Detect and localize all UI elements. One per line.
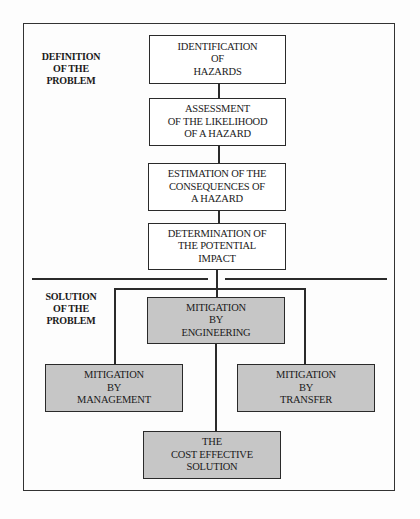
node-text: MITIGATION (186, 302, 246, 315)
connector-determination-branch (216, 270, 218, 297)
label-line: SOLUTION (36, 291, 106, 303)
connector-branch-transfer (304, 288, 306, 364)
node-assessment-of-likelihood: ASSESSMENT OF THE LIKELIHOOD OF A HAZARD (149, 98, 286, 146)
node-text: DETERMINATION OF (168, 228, 267, 241)
section-label-definition: DEFINITION OF THE PROBLEM (36, 51, 106, 87)
node-text: BY (299, 382, 313, 395)
label-line: PROBLEM (36, 315, 106, 327)
label-line: PROBLEM (36, 75, 106, 87)
connector-branch-management (114, 288, 116, 364)
connector-engineering-cost-effective (215, 344, 217, 431)
node-text: OF THE LIKELIHOOD (168, 116, 268, 129)
connector-identification-assessment (218, 84, 220, 98)
node-estimation-of-consequences: ESTIMATION OF THE CONSEQUENCES OF A HAZA… (148, 163, 286, 211)
node-text: HAZARDS (193, 66, 241, 79)
node-text: MANAGEMENT (77, 394, 151, 407)
node-text: TRANSFER (280, 394, 332, 407)
node-determination-of-impact: DETERMINATION OF THE POTENTIAL IMPACT (148, 223, 286, 270)
section-divider-right (225, 278, 387, 280)
node-text: OF A HAZARD (184, 128, 251, 141)
branch-line (114, 288, 305, 290)
node-text: ENGINEERING (182, 327, 251, 340)
label-line: OF THE (36, 63, 106, 75)
node-text: BY (209, 314, 223, 327)
node-text: MITIGATION (84, 369, 144, 382)
node-text: A HAZARD (191, 193, 243, 206)
node-mitigation-by-transfer: MITIGATION BY TRANSFER (237, 364, 375, 412)
node-cost-effective-solution: THE COST EFFECTIVE SOLUTION (143, 431, 281, 479)
connector-assessment-estimation (218, 146, 220, 163)
connector-estimation-determination (218, 211, 220, 223)
node-text: IMPACT (198, 253, 236, 266)
node-text: BY (107, 382, 121, 395)
node-text: SOLUTION (187, 461, 238, 474)
node-text: COST EFFECTIVE (171, 449, 253, 462)
node-text: THE POTENTIAL (178, 240, 256, 253)
node-identification-of-hazards: IDENTIFICATION OF HAZARDS (149, 35, 286, 84)
node-text: CONSEQUENCES OF (169, 181, 265, 194)
node-text: ASSESSMENT (185, 103, 250, 116)
label-line: DEFINITION (36, 51, 106, 63)
section-label-solution: SOLUTION OF THE PROBLEM (36, 291, 106, 327)
section-divider-left (32, 278, 208, 280)
node-mitigation-by-engineering: MITIGATION BY ENGINEERING (147, 297, 285, 344)
label-line: OF THE (36, 303, 106, 315)
node-text: ESTIMATION OF THE (168, 168, 267, 181)
node-text: THE (202, 436, 222, 449)
node-text: MITIGATION (276, 369, 336, 382)
node-mitigation-by-management: MITIGATION BY MANAGEMENT (45, 364, 183, 412)
node-text: IDENTIFICATION (177, 41, 257, 54)
node-text: OF (211, 53, 224, 66)
